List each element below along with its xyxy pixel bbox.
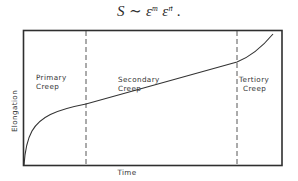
plot-frame [24, 31, 283, 166]
secondary-creep-label-line2: Creep [118, 84, 141, 93]
secondary-creep-label-line1: Secondary [118, 75, 160, 84]
primary-creep-label-line2: Creep [36, 82, 59, 91]
tertiary-creep-label-line1: Tertiory [238, 75, 270, 84]
primary-creep-label-line1: Primary [36, 73, 67, 82]
creep-curve [24, 34, 273, 165]
creep-diagram: Primary Creep Secondary Creep Tertiory C… [0, 0, 298, 181]
x-axis-label: Time [116, 168, 136, 177]
tertiary-creep-label-line2: Creep [243, 84, 266, 93]
y-axis-label: Elongation [10, 90, 19, 132]
